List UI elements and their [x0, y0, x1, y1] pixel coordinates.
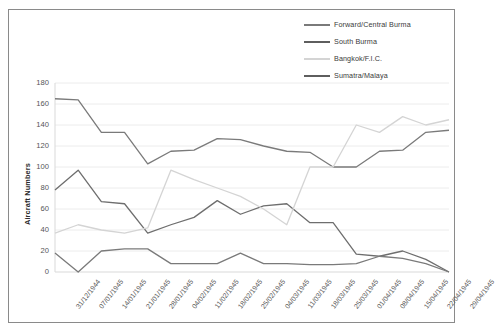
- x-tick-label: 29/04/1945: [468, 278, 495, 310]
- legend-item: Sumatra/Malaya: [304, 67, 444, 84]
- series-line: [55, 249, 449, 272]
- legend-swatch-line: [304, 58, 330, 60]
- y-tick-label: 140: [27, 120, 49, 129]
- y-tick-label: 180: [27, 78, 49, 87]
- legend-label: Sumatra/Malaya: [334, 71, 388, 80]
- legend-label: Bangkok/F.I.C.: [334, 54, 382, 63]
- legend-item: Forward/Central Burma: [304, 16, 444, 33]
- chart-frame: Forward/Central BurmaSouth BurmaBangkok/…: [8, 9, 455, 323]
- legend-swatch-line: [304, 41, 330, 43]
- legend-item: South Burma: [304, 33, 444, 50]
- legend-swatch-line: [304, 75, 330, 77]
- y-tick-label: 20: [27, 246, 49, 255]
- y-tick-label: 120: [27, 141, 49, 150]
- series-line: [55, 99, 449, 167]
- legend-label: South Burma: [334, 37, 377, 46]
- legend-item: Bangkok/F.I.C.: [304, 50, 444, 67]
- legend-swatch-line: [304, 24, 330, 26]
- y-axis-title: Aircraft Numbers: [23, 163, 32, 225]
- y-tick-label: 0: [27, 267, 49, 276]
- y-tick-label: 80: [27, 183, 49, 192]
- legend-label: Forward/Central Burma: [334, 20, 411, 29]
- series-line: [55, 117, 449, 234]
- y-tick-label: 60: [27, 204, 49, 213]
- y-tick-label: 160: [27, 99, 49, 108]
- chart-legend: Forward/Central BurmaSouth BurmaBangkok/…: [304, 16, 444, 84]
- y-tick-label: 40: [27, 225, 49, 234]
- y-tick-label: 100: [27, 162, 49, 171]
